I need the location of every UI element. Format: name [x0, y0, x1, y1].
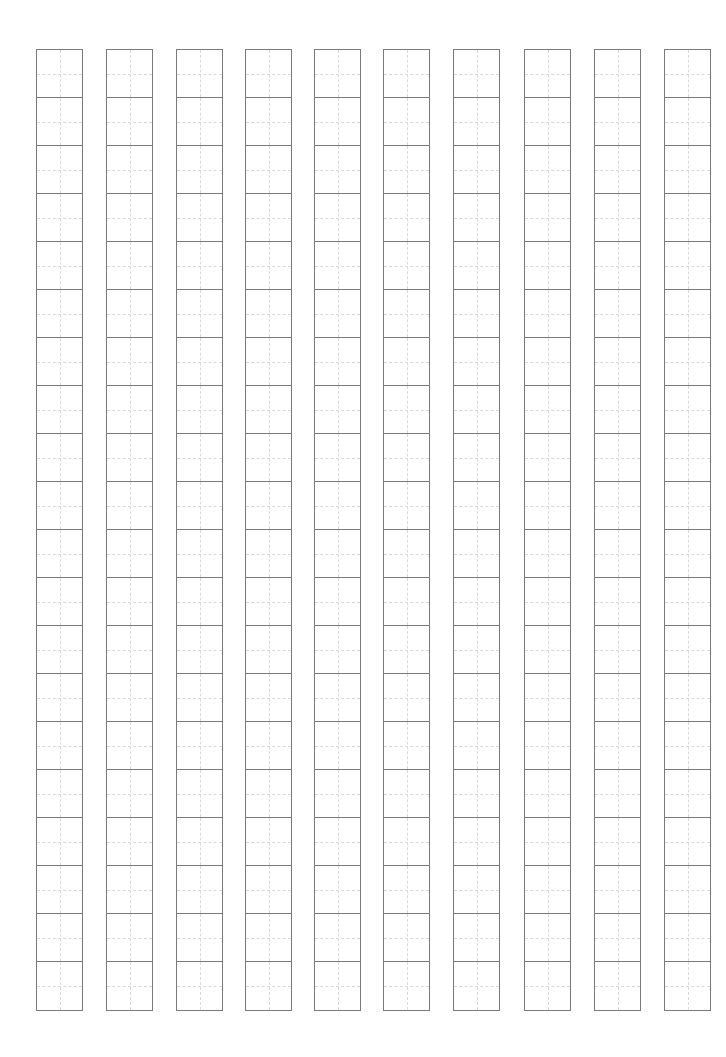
grid-cell — [37, 818, 82, 866]
horizontal-guide-line — [246, 506, 291, 507]
grid-cell — [384, 818, 429, 866]
horizontal-guide-line — [665, 698, 710, 699]
horizontal-guide-line — [246, 938, 291, 939]
horizontal-guide-line — [384, 890, 429, 891]
grid-cell — [595, 290, 640, 338]
horizontal-guide-line — [315, 746, 360, 747]
horizontal-guide-line — [315, 602, 360, 603]
horizontal-guide-line — [525, 122, 570, 123]
horizontal-guide-line — [315, 266, 360, 267]
horizontal-guide-line — [37, 314, 82, 315]
grid-cell — [315, 242, 360, 290]
horizontal-guide-line — [246, 602, 291, 603]
horizontal-guide-line — [454, 122, 499, 123]
horizontal-guide-line — [595, 362, 640, 363]
horizontal-guide-line — [37, 746, 82, 747]
horizontal-guide-line — [37, 602, 82, 603]
horizontal-guide-line — [595, 986, 640, 987]
grid-cell — [246, 530, 291, 578]
grid-cell — [246, 914, 291, 962]
grid-cell — [665, 866, 710, 914]
horizontal-guide-line — [454, 938, 499, 939]
horizontal-guide-line — [595, 938, 640, 939]
grid-cell — [246, 818, 291, 866]
grid-cell — [37, 722, 82, 770]
grid-cell — [595, 818, 640, 866]
horizontal-guide-line — [246, 410, 291, 411]
grid-cell — [315, 962, 360, 1010]
grid-cell — [107, 866, 152, 914]
grid-cell — [37, 626, 82, 674]
grid-cell — [384, 578, 429, 626]
grid-cell — [665, 386, 710, 434]
grid-cell — [384, 914, 429, 962]
grid-cell — [177, 98, 222, 146]
horizontal-guide-line — [525, 410, 570, 411]
horizontal-guide-line — [246, 74, 291, 75]
grid-column-1 — [36, 49, 83, 1011]
horizontal-guide-line — [454, 986, 499, 987]
horizontal-guide-line — [454, 74, 499, 75]
horizontal-guide-line — [595, 74, 640, 75]
horizontal-guide-line — [177, 746, 222, 747]
grid-cell — [454, 146, 499, 194]
grid-cell — [315, 386, 360, 434]
grid-cell — [384, 146, 429, 194]
horizontal-guide-line — [246, 122, 291, 123]
grid-cell — [37, 770, 82, 818]
horizontal-guide-line — [384, 170, 429, 171]
grid-cell — [315, 338, 360, 386]
horizontal-guide-line — [665, 890, 710, 891]
grid-cell — [384, 290, 429, 338]
horizontal-guide-line — [107, 506, 152, 507]
grid-cell — [525, 530, 570, 578]
grid-column-2 — [106, 49, 153, 1011]
grid-cell — [37, 338, 82, 386]
grid-cell — [177, 818, 222, 866]
grid-cell — [177, 914, 222, 962]
horizontal-guide-line — [37, 506, 82, 507]
horizontal-guide-line — [37, 938, 82, 939]
grid-cell — [107, 482, 152, 530]
grid-cell — [595, 386, 640, 434]
grid-cell — [454, 482, 499, 530]
grid-cell — [246, 722, 291, 770]
grid-cell — [665, 530, 710, 578]
practice-sheet — [0, 0, 726, 1057]
grid-cell — [107, 146, 152, 194]
grid-cell — [665, 674, 710, 722]
grid-cell — [107, 50, 152, 98]
horizontal-guide-line — [37, 410, 82, 411]
grid-cell — [525, 722, 570, 770]
grid-cell — [177, 386, 222, 434]
grid-cell — [525, 818, 570, 866]
horizontal-guide-line — [37, 266, 82, 267]
grid-cell — [107, 770, 152, 818]
grid-cell — [595, 866, 640, 914]
grid-cell — [177, 290, 222, 338]
horizontal-guide-line — [177, 794, 222, 795]
grid-cell — [665, 290, 710, 338]
grid-cell — [384, 50, 429, 98]
grid-cell — [177, 242, 222, 290]
grid-cell — [177, 530, 222, 578]
grid-cell — [665, 338, 710, 386]
horizontal-guide-line — [315, 458, 360, 459]
grid-cell — [177, 194, 222, 242]
grid-cell — [595, 146, 640, 194]
horizontal-guide-line — [384, 506, 429, 507]
grid-cell — [384, 530, 429, 578]
grid-cell — [595, 962, 640, 1010]
grid-cell — [246, 434, 291, 482]
grid-cell — [384, 194, 429, 242]
horizontal-guide-line — [107, 314, 152, 315]
horizontal-guide-line — [595, 266, 640, 267]
grid-cell — [246, 98, 291, 146]
grid-cell — [454, 818, 499, 866]
grid-cell — [384, 98, 429, 146]
grid-cell — [107, 434, 152, 482]
horizontal-guide-line — [107, 266, 152, 267]
horizontal-guide-line — [107, 170, 152, 171]
grid-cell — [107, 338, 152, 386]
grid-cell — [107, 722, 152, 770]
